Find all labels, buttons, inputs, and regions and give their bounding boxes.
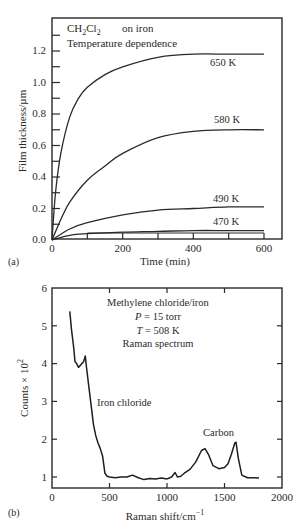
ytick-label: 0.6 — [32, 139, 46, 151]
y-axis-title: Film thickness/µm — [16, 89, 28, 172]
x-axis-title: Raman shift/cm−1 — [126, 508, 204, 522]
peak-label-carbon: Carbon — [203, 427, 235, 438]
formula-annotation: CH2Cl2 — [67, 22, 101, 37]
curve-label-580k: 580 K — [214, 114, 240, 125]
xtick-label: 1000 — [156, 491, 179, 503]
ytick-label: 1 — [42, 471, 48, 483]
xtick-label: 2000 — [271, 491, 294, 503]
ytick-label: 2 — [42, 433, 48, 445]
panel-b: 1 2 3 4 5 6 0 500 1000 1500 2000 Raman s… — [8, 282, 294, 522]
subtitle-annotation: Temperature dependence — [67, 37, 177, 49]
curve-label-490k: 490 K — [213, 193, 239, 204]
xtick-label: 500 — [101, 491, 118, 503]
panel-label: (a) — [8, 256, 19, 268]
xtick-label: 0 — [49, 242, 55, 254]
panel-a: 0.0 0.2 0.4 0.6 0.8 1.0 1.2 0 200 400 60… — [8, 18, 282, 268]
ytick-label: 0.8 — [32, 107, 46, 119]
info-annotation: P = 15 torr — [134, 311, 181, 322]
ytick-label: 1.0 — [32, 76, 46, 88]
ytick-label: 4 — [42, 357, 48, 369]
substrate-annotation: on iron — [122, 22, 154, 34]
ytick-label: 0.2 — [32, 202, 46, 214]
panel-a-frame — [52, 18, 282, 239]
x-axis-title: Time (min) — [140, 255, 190, 268]
peak-label-iron-chloride: Iron chloride — [97, 397, 152, 408]
figure: 0.0 0.2 0.4 0.6 0.8 1.0 1.2 0 200 400 60… — [0, 0, 303, 530]
raman-spectrum-line — [70, 311, 259, 479]
ytick-label: 5 — [42, 320, 48, 332]
curve-label-650k: 650 K — [210, 57, 236, 68]
ytick-label: 6 — [42, 282, 48, 294]
xtick-label: 600 — [256, 242, 273, 254]
xtick-label: 1500 — [214, 491, 237, 503]
xtick-label: 400 — [185, 242, 202, 254]
xtick-label: 0 — [49, 491, 55, 503]
panel-label: (b) — [8, 507, 20, 519]
info-annotation: Methylene chloride/iron — [107, 297, 210, 308]
ytick-label: 1.2 — [32, 44, 46, 56]
info-annotation: Raman spectrum — [123, 338, 194, 349]
y-axis-title: Counts × 102 — [16, 359, 30, 417]
ytick-label: 0.0 — [32, 233, 46, 245]
panel-a-curves — [52, 54, 264, 240]
curve-650k — [52, 54, 264, 240]
panel-a-y-ticks — [52, 35, 60, 224]
ytick-label: 3 — [42, 395, 48, 407]
ytick-label: 0.4 — [32, 170, 46, 182]
info-annotation: T = 508 K — [137, 325, 180, 336]
panel-a-x-ticks — [87, 233, 264, 239]
curve-label-470k: 470 K — [213, 216, 239, 227]
xtick-label: 200 — [114, 242, 131, 254]
